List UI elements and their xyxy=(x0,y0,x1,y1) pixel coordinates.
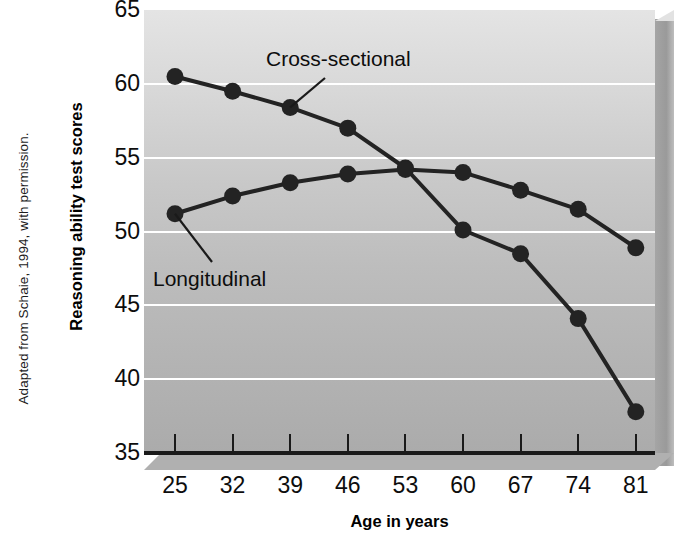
y-tick-label: 35 xyxy=(92,441,140,464)
data-point xyxy=(627,239,644,256)
series-line-cross-sectional xyxy=(175,76,636,411)
annotation-leader-lines xyxy=(175,78,325,262)
data-point xyxy=(339,165,356,182)
leader-line-cross-sectional xyxy=(290,78,325,107)
data-point xyxy=(455,222,472,239)
y-tick-label: 60 xyxy=(92,72,140,95)
x-axis-tick-labels: 253239465360677481 xyxy=(144,474,674,504)
x-axis-title: Age in years xyxy=(144,512,655,531)
x-tick-label: 32 xyxy=(208,474,258,497)
x-tick-label: 81 xyxy=(611,474,661,497)
data-point xyxy=(339,120,356,137)
x-tick-label: 39 xyxy=(265,474,315,497)
y-tick-label: 50 xyxy=(92,220,140,243)
figure-root: Adapted from Schaie, 1994, with permissi… xyxy=(0,0,686,550)
data-point xyxy=(167,68,184,85)
x-tick-label: 53 xyxy=(380,474,430,497)
x-tick-label: 67 xyxy=(496,474,546,497)
y-axis-tick-labels: 65605550454035 xyxy=(52,0,140,550)
data-point xyxy=(455,164,472,181)
plot-3d-bottom-face xyxy=(144,453,674,470)
series-line-longitudinal xyxy=(175,169,636,247)
data-point xyxy=(512,182,529,199)
annotation-cross-sectional: Cross-sectional xyxy=(266,48,411,69)
data-point xyxy=(512,245,529,262)
plot-3d-right-face xyxy=(655,19,674,466)
source-credit: Adapted from Schaie, 1994, with permissi… xyxy=(16,115,31,405)
y-tick-label: 40 xyxy=(92,367,140,390)
y-tick-label: 55 xyxy=(92,146,140,169)
data-point xyxy=(224,83,241,100)
data-point xyxy=(570,201,587,218)
data-point xyxy=(397,161,414,178)
data-point xyxy=(627,403,644,420)
y-tick-label: 65 xyxy=(92,0,140,21)
plot-area: Cross-sectional Longitudinal xyxy=(144,10,674,470)
x-tick-label: 60 xyxy=(438,474,488,497)
series-overlay xyxy=(144,10,655,453)
annotation-longitudinal: Longitudinal xyxy=(153,268,266,289)
data-point xyxy=(570,310,587,327)
data-point xyxy=(224,188,241,205)
x-tick-label: 74 xyxy=(553,474,603,497)
x-tick-label: 46 xyxy=(323,474,373,497)
x-tick-label: 25 xyxy=(150,474,200,497)
data-series-group xyxy=(167,68,645,420)
y-tick-label: 45 xyxy=(92,293,140,316)
leader-line-longitudinal xyxy=(175,214,212,262)
data-point xyxy=(282,174,299,191)
